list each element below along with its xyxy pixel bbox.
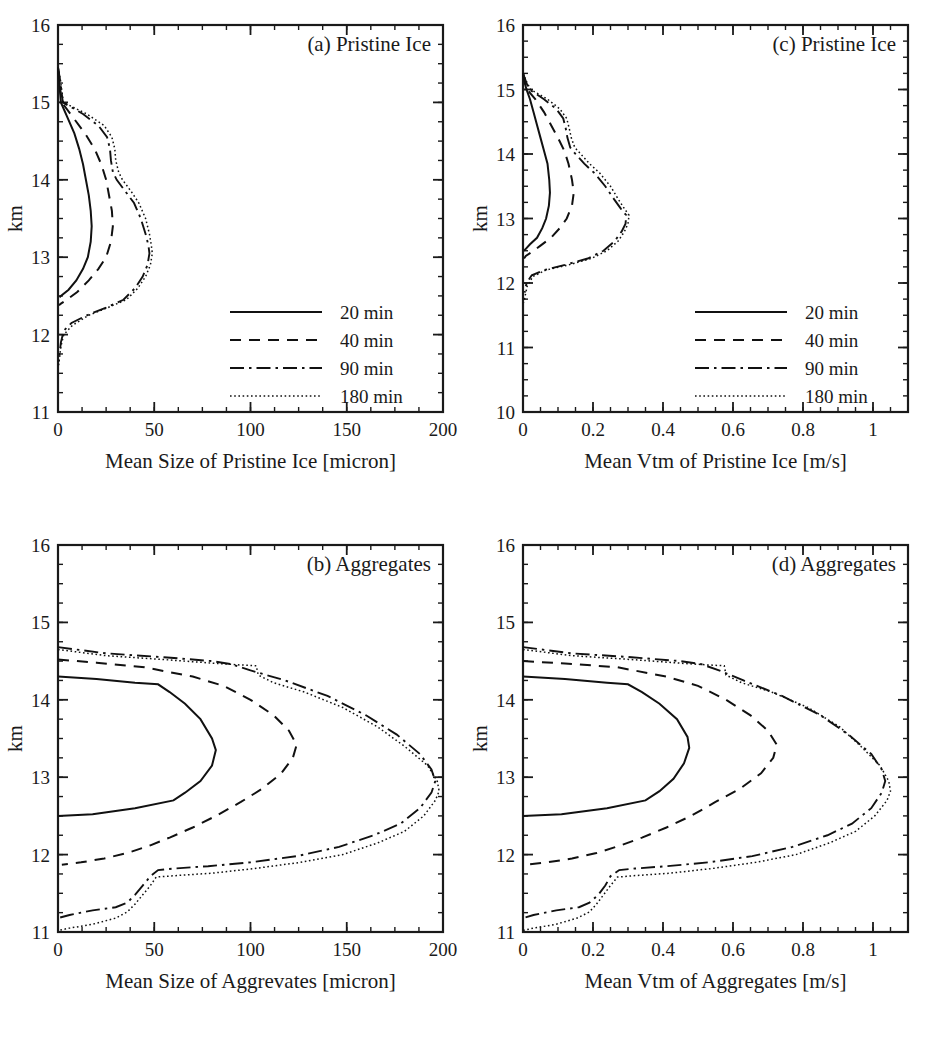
- y-tick-label: 12: [31, 325, 50, 346]
- four-panel-figure: 050100150200111213141516(a) Pristine Ice…: [0, 0, 930, 1039]
- minor-ticks: [523, 25, 908, 412]
- series-group: [58, 68, 152, 366]
- x-tick-label: 0.8: [791, 939, 815, 960]
- series-line-180-min: [58, 68, 152, 366]
- chart-panel-c: 00.20.40.60.8110111213141516(c) Pristine…: [465, 0, 930, 519]
- series-line-90-min: [58, 68, 149, 362]
- y-tick-label: 16: [496, 15, 515, 36]
- x-tick-label: 1: [868, 939, 878, 960]
- legend-label-20-min: 20 min: [340, 302, 394, 323]
- y-tick-label: 12: [496, 273, 515, 294]
- x-axis-title: Mean Size of Pristine Ice [micron]: [105, 449, 396, 473]
- y-axis-title: km: [3, 205, 27, 232]
- y-tick-label: 14: [496, 690, 516, 711]
- x-tick-label: 150: [333, 939, 362, 960]
- major-ticks: 050100150200111213141516: [31, 535, 457, 960]
- legend-label-180-min: 180 min: [340, 386, 403, 407]
- x-tick-label: 0: [53, 419, 63, 440]
- y-tick-label: 13: [31, 247, 50, 268]
- x-tick-label: 100: [236, 939, 265, 960]
- series-line-20-min: [58, 677, 216, 816]
- plot-frame: [523, 25, 908, 412]
- y-axis-title: km: [468, 725, 492, 752]
- y-tick-label: 10: [496, 402, 515, 423]
- y-tick-label: 15: [31, 612, 50, 633]
- y-tick-label: 15: [496, 80, 515, 101]
- legend-label-20-min: 20 min: [805, 302, 859, 323]
- y-axis-title: km: [468, 205, 492, 232]
- panel-title: (c) Pristine Ice: [772, 32, 896, 56]
- minor-ticks: [58, 25, 443, 412]
- x-axis-title: Mean Vtm of Aggregates [m/s]: [584, 969, 846, 993]
- y-tick-label: 15: [496, 612, 515, 633]
- legend-label-40-min: 40 min: [805, 330, 859, 351]
- plot-frame: [58, 545, 443, 932]
- x-tick-label: 100: [236, 419, 265, 440]
- x-tick-label: 0.4: [651, 939, 675, 960]
- y-tick-label: 11: [32, 922, 50, 943]
- y-tick-label: 16: [31, 15, 50, 36]
- series-line-180-min: [523, 649, 891, 930]
- x-tick-label: 0.2: [581, 939, 605, 960]
- series-line-90-min: [58, 647, 435, 918]
- x-tick-label: 0: [518, 419, 528, 440]
- x-tick-label: 1: [868, 419, 878, 440]
- x-tick-label: 50: [145, 419, 164, 440]
- y-tick-label: 14: [31, 690, 51, 711]
- y-tick-label: 11: [32, 402, 50, 423]
- panel-title: (a) Pristine Ice: [307, 32, 431, 56]
- x-tick-label: 150: [333, 419, 362, 440]
- legend-label-40-min: 40 min: [340, 330, 394, 351]
- y-tick-label: 11: [497, 338, 515, 359]
- x-axis-title: Mean Vtm of Pristine Ice [m/s]: [584, 449, 847, 473]
- x-axis-title: Mean Size of Aggrevates [micron]: [105, 969, 395, 993]
- panel-title: (b) Aggregates: [307, 552, 431, 576]
- series-group: [523, 647, 891, 930]
- minor-ticks: [523, 545, 908, 932]
- legend-label-90-min: 90 min: [805, 358, 859, 379]
- series-line-90-min: [523, 73, 626, 292]
- x-tick-label: 0: [518, 939, 528, 960]
- x-tick-label: 0.6: [721, 939, 745, 960]
- series-line-180-min: [523, 73, 629, 302]
- x-tick-label: 50: [145, 939, 164, 960]
- y-axis-title: km: [3, 725, 27, 752]
- y-tick-label: 16: [31, 535, 50, 556]
- y-tick-label: 11: [497, 922, 515, 943]
- series-line-20-min: [523, 677, 689, 816]
- series-line-40-min: [58, 660, 297, 865]
- y-tick-label: 15: [31, 92, 50, 113]
- minor-ticks: [58, 545, 443, 932]
- plot-frame: [58, 25, 443, 412]
- y-tick-label: 13: [496, 209, 515, 230]
- series-line-180-min: [58, 649, 439, 930]
- series-line-40-min: [523, 661, 777, 865]
- major-ticks: 00.20.40.60.81111213141516: [496, 535, 908, 960]
- y-tick-label: 13: [496, 767, 515, 788]
- x-tick-label: 0.4: [651, 419, 675, 440]
- panel-title: (d) Aggregates: [772, 552, 896, 576]
- x-tick-label: 0.8: [791, 419, 815, 440]
- chart-panel-d: 00.20.40.60.81111213141516(d) Aggregates…: [465, 520, 930, 1039]
- legend: 20 min40 min90 min180 min: [230, 302, 403, 407]
- y-tick-label: 12: [496, 845, 515, 866]
- y-tick-label: 14: [31, 170, 51, 191]
- y-tick-label: 14: [496, 144, 516, 165]
- y-tick-label: 12: [31, 845, 50, 866]
- series-group: [523, 73, 629, 302]
- x-tick-label: 200: [429, 419, 458, 440]
- legend: 20 min40 min90 min180 min: [695, 302, 868, 407]
- major-ticks: 050100150200111213141516: [31, 15, 457, 440]
- x-tick-label: 0.2: [581, 419, 605, 440]
- x-tick-label: 200: [429, 939, 458, 960]
- series-line-90-min: [523, 647, 885, 918]
- chart-panel-a: 050100150200111213141516(a) Pristine Ice…: [0, 0, 465, 519]
- y-tick-label: 13: [31, 767, 50, 788]
- y-tick-label: 16: [496, 535, 515, 556]
- x-tick-label: 0.6: [721, 419, 745, 440]
- legend-label-90-min: 90 min: [340, 358, 394, 379]
- series-group: [58, 647, 439, 930]
- chart-panel-b: 050100150200111213141516(b) AggregatesMe…: [0, 520, 465, 1039]
- x-tick-label: 0: [53, 939, 63, 960]
- legend-label-180-min: 180 min: [805, 386, 868, 407]
